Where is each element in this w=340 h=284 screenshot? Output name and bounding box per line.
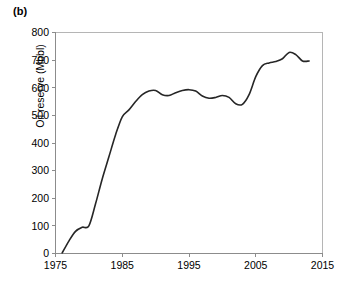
y-tick-label: 500 <box>31 109 49 121</box>
x-tick-label: 1975 <box>44 259 68 271</box>
y-tick-label: 100 <box>31 220 49 232</box>
y-tick-label: 400 <box>31 137 49 149</box>
x-tick-label: 1995 <box>177 259 201 271</box>
data-series-group <box>62 52 309 253</box>
y-tick-label: 200 <box>31 192 49 204</box>
x-tick-label: 1985 <box>111 259 135 271</box>
x-tick-label: 2015 <box>311 259 335 271</box>
y-tick-label: 600 <box>31 82 49 94</box>
plot-frame <box>56 33 323 254</box>
figure-panel: (b) Oil reserve (Mbbl) 01002003004005006… <box>0 0 340 284</box>
series-line-oil-reserve <box>62 52 309 253</box>
y-tick-label: 300 <box>31 164 49 176</box>
y-tick-label: 800 <box>31 26 49 38</box>
x-axis-ticks: 19751985199520052015 <box>44 254 335 272</box>
x-tick-label: 2005 <box>244 259 268 271</box>
y-axis-ticks: 0100200300400500600700800 <box>31 26 55 259</box>
line-chart-plot: 0100200300400500600700800 19751985199520… <box>0 0 340 284</box>
y-tick-label: 0 <box>43 247 49 259</box>
y-tick-label: 700 <box>31 54 49 66</box>
